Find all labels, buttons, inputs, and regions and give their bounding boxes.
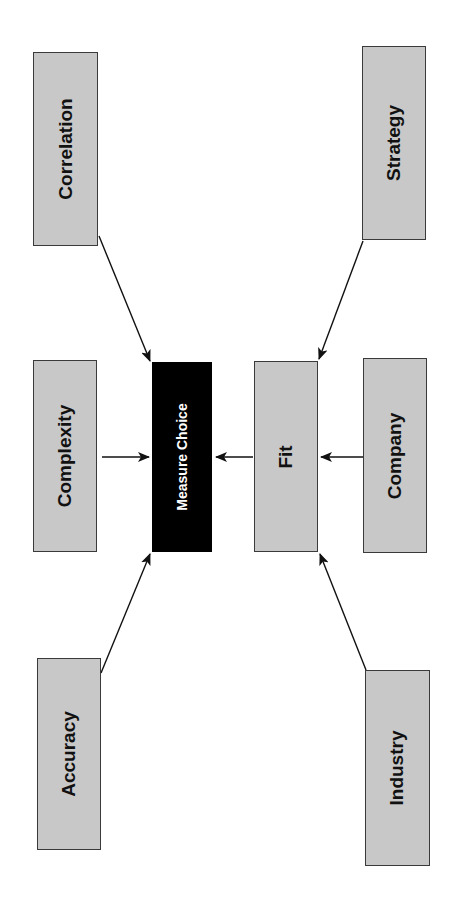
node-label: Accuracy bbox=[58, 711, 80, 797]
node-label: Industry bbox=[387, 731, 409, 806]
arrow-accuracy-to-measure-choice bbox=[101, 554, 150, 673]
node-correlation: Correlation bbox=[33, 52, 98, 246]
node-label: Complexity bbox=[54, 405, 76, 507]
arrow-strategy-to-fit bbox=[319, 241, 363, 359]
node-accuracy: Accuracy bbox=[37, 658, 101, 850]
node-complexity: Complexity bbox=[33, 360, 97, 552]
node-label: Correlation bbox=[55, 98, 77, 199]
node-measure-choice: Measure Choice bbox=[152, 362, 212, 552]
node-industry: Industry bbox=[365, 670, 430, 866]
arrow-industry-to-fit bbox=[320, 554, 366, 670]
arrow-correlation-to-measure-choice bbox=[99, 236, 150, 361]
node-company: Company bbox=[363, 358, 427, 553]
node-fit: Fit bbox=[254, 361, 318, 552]
node-strategy: Strategy bbox=[362, 46, 426, 240]
node-label: Fit bbox=[275, 445, 297, 468]
node-label: Strategy bbox=[383, 105, 405, 181]
node-label: Measure Choice bbox=[174, 403, 190, 510]
node-label: Company bbox=[384, 412, 406, 499]
